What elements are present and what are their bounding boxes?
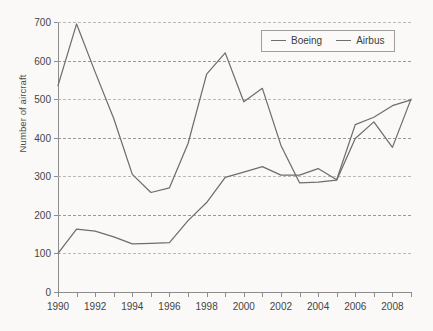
series-group	[58, 22, 411, 292]
x-tick-mark-1990	[58, 292, 59, 297]
y-tick-label-100: 100	[34, 248, 51, 259]
x-tick-mark-2002	[281, 292, 282, 297]
x-tick-label-1996: 1996	[158, 301, 180, 312]
x-tick-mark-2005	[337, 292, 338, 297]
y-tick-label-400: 400	[34, 132, 51, 143]
legend-item-boeing: Boeing	[271, 35, 322, 46]
x-tick-mark-1996	[169, 292, 170, 297]
x-tick-mark-1992	[95, 292, 96, 297]
x-tick-mark-1991	[77, 292, 78, 297]
x-axis-line	[58, 292, 412, 293]
x-tick-mark-2006	[355, 292, 356, 297]
x-tick-label-1992: 1992	[84, 301, 106, 312]
x-tick-mark-2003	[300, 292, 301, 297]
x-tick-mark-1997	[188, 292, 189, 297]
x-tick-mark-2009	[411, 292, 412, 297]
legend-item-airbus: Airbus	[336, 35, 384, 46]
x-tick-mark-1999	[225, 292, 226, 297]
series-line-airbus	[58, 100, 411, 254]
x-tick-label-1994: 1994	[121, 301, 143, 312]
y-tick-label-200: 200	[34, 209, 51, 220]
x-tick-mark-1993	[114, 292, 115, 297]
x-tick-mark-2004	[318, 292, 319, 297]
line-swatch-boeing-icon	[271, 40, 286, 41]
legend-label-airbus: Airbus	[356, 35, 384, 46]
x-tick-label-2002: 2002	[270, 301, 292, 312]
x-tick-label-2004: 2004	[307, 301, 329, 312]
y-tick-label-300: 300	[34, 171, 51, 182]
y-tick-label-600: 600	[34, 55, 51, 66]
chart-legend: Boeing Airbus	[261, 30, 395, 52]
x-tick-label-1998: 1998	[196, 301, 218, 312]
line-chart: Number of aircraft 010020030040050060070…	[0, 0, 433, 331]
y-tick-label-0: 0	[45, 287, 51, 298]
line-swatch-airbus-icon	[336, 40, 351, 41]
x-tick-label-1990: 1990	[47, 301, 69, 312]
y-axis-title: Number of aircraft	[17, 54, 28, 174]
x-tick-mark-2007	[374, 292, 375, 297]
x-tick-mark-2008	[392, 292, 393, 297]
x-tick-mark-1994	[132, 292, 133, 297]
x-tick-mark-1995	[151, 292, 152, 297]
x-tick-mark-1998	[207, 292, 208, 297]
x-tick-label-2000: 2000	[233, 301, 255, 312]
y-tick-label-700: 700	[34, 17, 51, 28]
x-tick-label-2008: 2008	[381, 301, 403, 312]
x-tick-mark-2001	[262, 292, 263, 297]
x-tick-label-2006: 2006	[344, 301, 366, 312]
x-tick-mark-2000	[244, 292, 245, 297]
plot-area: 0100200300400500600700 19901992199419961…	[58, 22, 411, 292]
legend-label-boeing: Boeing	[291, 35, 322, 46]
y-tick-label-500: 500	[34, 94, 51, 105]
